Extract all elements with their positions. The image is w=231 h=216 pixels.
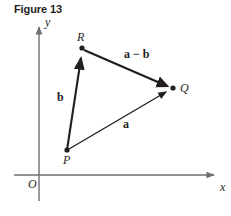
point-label-R: R: [77, 30, 84, 45]
vector-label-a: a: [123, 117, 129, 132]
vector-label-b: b: [57, 90, 64, 105]
x-axis-label: x: [220, 180, 225, 195]
point-dot-R: [79, 45, 84, 50]
point-dot-P: [64, 147, 69, 152]
point-label-P: P: [63, 153, 70, 168]
vector-b-line: [67, 58, 81, 150]
point-label-Q: Q: [180, 81, 189, 96]
origin-label: O: [28, 177, 37, 192]
vector-a-line: [69, 92, 166, 149]
y-axis-label: y: [45, 15, 50, 30]
figure-panel: Figure 13 y x O R Q P: [0, 0, 231, 216]
point-dot-Q: [170, 85, 175, 90]
vector-label-a-minus-b: a − b: [124, 47, 150, 62]
